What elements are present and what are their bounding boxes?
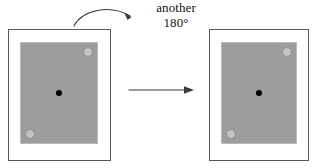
transform-arrow-icon xyxy=(128,82,196,98)
hole-bottom-left-icon xyxy=(226,129,236,139)
plate-after xyxy=(221,42,297,144)
caption-line-another: another xyxy=(133,0,219,15)
hole-bottom-left-icon xyxy=(25,129,35,139)
caption-line-angle: 180° xyxy=(133,15,219,30)
hole-top-right-icon xyxy=(282,47,292,57)
figure-before xyxy=(8,29,111,161)
rotation-caption: another 180° xyxy=(133,0,219,31)
center-dot-icon xyxy=(56,90,62,96)
plate-before xyxy=(20,42,98,144)
diagram-canvas: another 180° xyxy=(0,0,313,167)
center-dot-icon xyxy=(256,90,262,96)
figure-after xyxy=(209,29,309,161)
hole-top-right-icon xyxy=(83,47,93,57)
curved-rotation-arrow-icon xyxy=(72,2,140,30)
